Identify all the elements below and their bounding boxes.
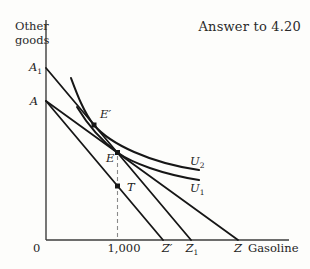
label-T: T xyxy=(127,181,135,193)
label-A1: A1 xyxy=(24,61,42,73)
budget-line-A-Zprime xyxy=(46,101,163,240)
point-T xyxy=(115,184,120,189)
y-axis-label: Other goods xyxy=(15,20,49,47)
indifference-curve-figure: Answer to 4.20 Other goods A1 A E′ E T U… xyxy=(0,0,310,269)
label-U2: U2 xyxy=(190,155,204,167)
label-Z: Z xyxy=(234,242,242,254)
label-Z-prime: Z′ xyxy=(162,242,173,254)
label-E-prime: E′ xyxy=(100,108,111,120)
budget-line-A-Z xyxy=(46,101,238,240)
label-U1: U1 xyxy=(190,182,204,194)
label-E: E xyxy=(106,152,114,164)
point-E xyxy=(115,150,120,155)
label-A: A xyxy=(24,95,38,107)
y-axis-label-line2: goods xyxy=(15,34,49,48)
indifference-curve-U1 xyxy=(77,107,199,180)
y-axis-label-line1: Other xyxy=(15,20,49,34)
point-Eprime xyxy=(92,123,97,128)
x-axis-label: Gasoline xyxy=(248,242,298,254)
origin-label: 0 xyxy=(33,242,40,254)
x-tick-1000: 1,000 xyxy=(108,242,141,254)
indifference-curve-U2 xyxy=(71,78,199,170)
figure-title: Answer to 4.20 xyxy=(198,19,301,34)
label-Z1: Z1 xyxy=(186,242,199,254)
